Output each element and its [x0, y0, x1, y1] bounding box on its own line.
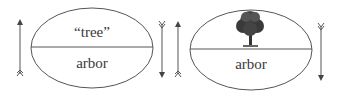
left-sign	[31, 8, 153, 88]
right-down-arrow-icon	[318, 23, 324, 78]
sign-diagrams	[0, 0, 341, 99]
left-down-arrow-icon	[159, 21, 165, 75]
tree-icon	[236, 11, 264, 46]
right-signifier-label: arbor	[221, 56, 281, 73]
left-signifier-label: arbor	[62, 55, 122, 72]
left-signified-label: “tree”	[62, 24, 122, 41]
left-up-arrow-icon	[17, 22, 23, 76]
right-up-arrow-icon	[175, 24, 181, 77]
